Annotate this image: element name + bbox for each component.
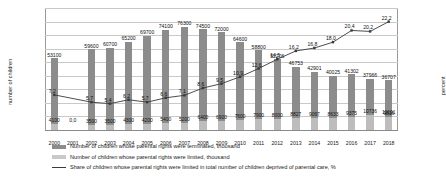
share-line-marker <box>220 82 222 84</box>
share-point-label: 18,0 <box>326 35 336 41</box>
legend-item-share: Share of children whose parental rights … <box>52 163 442 172</box>
share-line-marker <box>165 97 167 99</box>
share-point-label: 6,6 <box>160 91 167 97</box>
share-point-label: 6,2 <box>123 93 130 99</box>
share-point-label: 5,7 <box>86 95 93 101</box>
share-line-marker <box>257 67 259 69</box>
y-axis-title-left: number of children <box>7 59 13 105</box>
share-point-label: 14,5 <box>270 52 280 58</box>
share-line-marker <box>127 99 129 101</box>
share-line-marker <box>332 41 334 43</box>
share-line-marker <box>388 20 390 22</box>
share-point-label: 0,0 <box>69 117 76 123</box>
legend-swatch-terminated <box>52 145 66 149</box>
legend-item-terminated: Number of children whose parental rights… <box>52 142 442 151</box>
legend-label-share: Share of children whose parental rights … <box>70 164 336 171</box>
share-point-label: 12,6 <box>252 62 262 68</box>
y-axis-title-right: percent <box>440 76 446 95</box>
share-point-label: 7,1 <box>179 88 186 94</box>
share-point-label: 9,5 <box>216 77 223 83</box>
share-point-label: 8,6 <box>197 81 204 87</box>
gridline <box>45 130 398 131</box>
share-line-marker <box>202 87 204 89</box>
legend-label-limited: Number of children whose parental rights… <box>70 154 230 161</box>
share-point-label: 20,4 <box>345 23 355 29</box>
legend-item-limited: Number of children whose parental rights… <box>52 153 442 162</box>
share-point-label: 5,4 <box>104 97 111 103</box>
share-point-label: 10,9 <box>233 70 243 76</box>
legend: Number of children whose parental rights… <box>52 142 442 174</box>
share-line-marker <box>183 94 185 96</box>
chart-figure: number of children percent 010 00020 000… <box>0 0 446 188</box>
share-line-marker <box>109 102 111 104</box>
share-point-label: 7,2 <box>49 88 56 94</box>
legend-swatch-limited <box>52 155 66 159</box>
legend-label-terminated: Number of children whose parental rights… <box>70 143 240 150</box>
share-line-marker <box>295 50 297 52</box>
share-point-label: 16,2 <box>289 44 299 50</box>
share-point-label: 16,8 <box>307 41 317 47</box>
share-line-marker <box>369 30 371 32</box>
share-line-marker <box>276 58 278 60</box>
share-line-marker <box>146 101 148 103</box>
share-line-marker <box>313 47 315 49</box>
share-line-marker <box>239 76 241 78</box>
share-point-label: 22,2 <box>382 15 392 21</box>
legend-swatch-share <box>52 167 66 168</box>
plot-area: 010 00020 00030 00040 00050 00060 00070 … <box>45 8 398 130</box>
share-line-marker <box>53 94 55 96</box>
share-point-label: 5,7 <box>142 95 149 101</box>
share-line-marker <box>90 101 92 103</box>
share-point-label: 20,2 <box>363 24 373 30</box>
share-line-path <box>54 22 388 104</box>
share-line-marker <box>350 29 352 31</box>
